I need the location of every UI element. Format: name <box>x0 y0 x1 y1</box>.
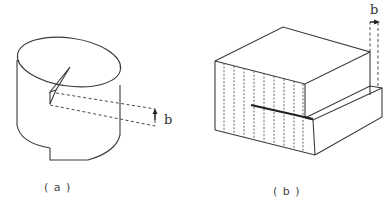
dimension-label-a: b <box>164 112 172 127</box>
panel-a-caption: ( a ) <box>44 181 71 194</box>
panel-a-cylinder <box>14 31 157 160</box>
dimension-label-b: b <box>370 2 378 17</box>
panel-b-caption: ( b ) <box>273 185 301 198</box>
panel-b-block <box>215 20 382 156</box>
figure-drawing <box>0 0 392 208</box>
